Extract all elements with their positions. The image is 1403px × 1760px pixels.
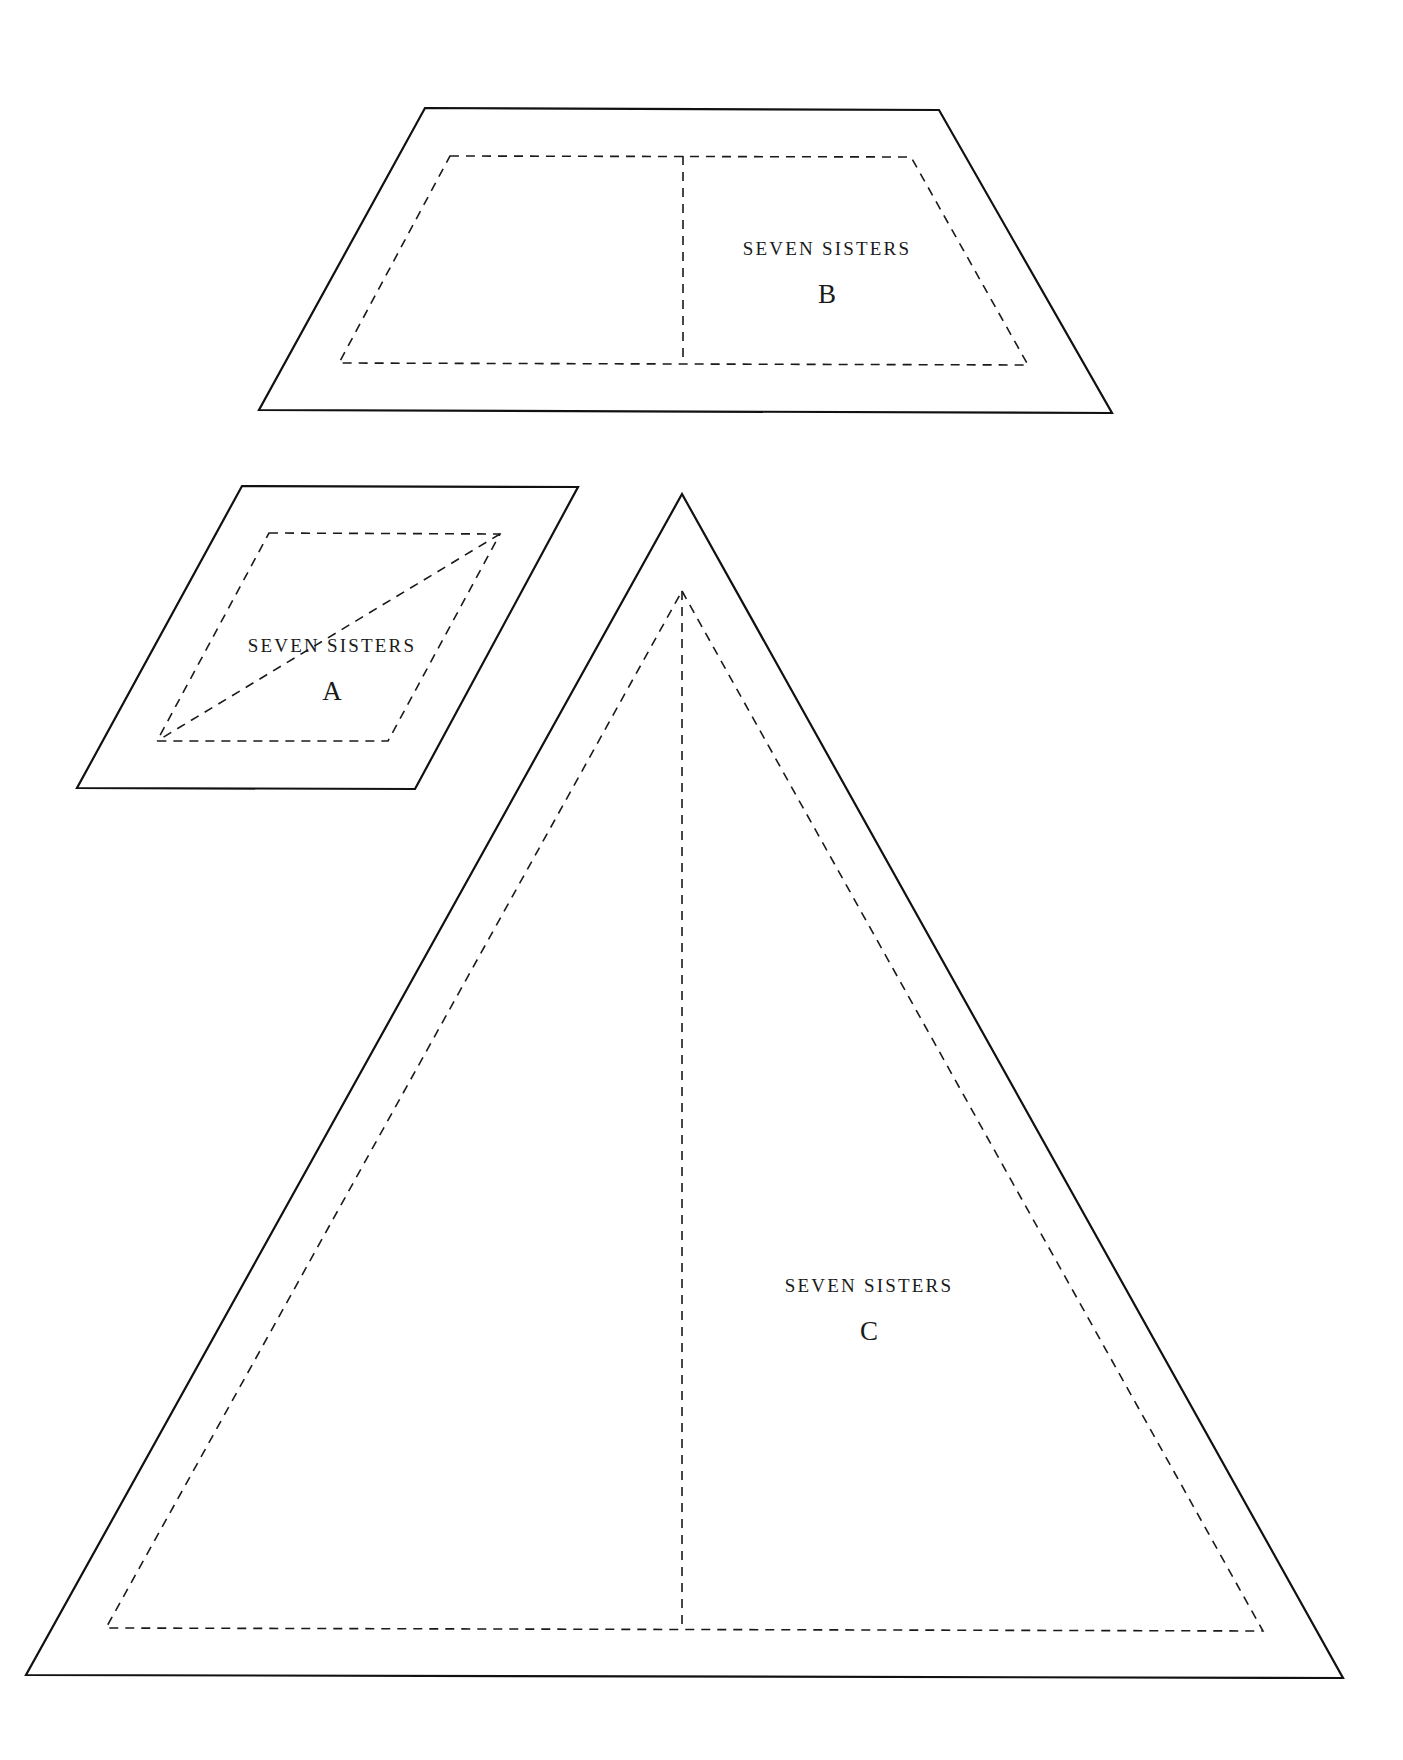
template-b-letter: B — [818, 279, 836, 309]
pattern-drawing: SEVEN SISTERS B SEVEN SISTERS A SEVEN SI… — [0, 0, 1403, 1760]
template-c: SEVEN SISTERS C — [26, 494, 1343, 1678]
template-b-cut-line — [259, 108, 1112, 413]
template-c-seam-line — [106, 591, 1263, 1631]
template-a-letter: A — [322, 676, 342, 706]
template-b-title: SEVEN SISTERS — [743, 238, 911, 259]
template-a: SEVEN SISTERS A — [77, 486, 578, 789]
template-b: SEVEN SISTERS B — [259, 108, 1112, 413]
template-c-title: SEVEN SISTERS — [785, 1275, 953, 1296]
pattern-sheet: SEVEN SISTERS B SEVEN SISTERS A SEVEN SI… — [0, 0, 1403, 1760]
template-c-letter: C — [860, 1316, 878, 1346]
template-a-title: SEVEN SISTERS — [248, 635, 416, 656]
template-c-cut-line — [26, 494, 1343, 1678]
